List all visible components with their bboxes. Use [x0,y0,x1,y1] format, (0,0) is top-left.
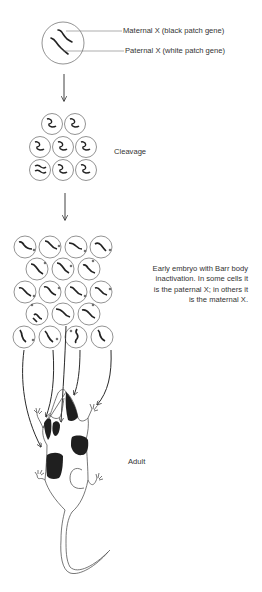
cleavage-label: Cleavage [114,147,146,157]
cleavage-cell [30,160,51,181]
embryo-cell [14,281,36,303]
zygote-cell [42,22,124,64]
embryo-cell [39,326,61,348]
patch-right-flank [71,436,88,456]
mouse-hindleft-toes [35,470,44,475]
embryo-cell [78,303,100,325]
patch-head [66,392,78,421]
mouse-foreleft-toes [34,408,42,414]
embryo-cell [39,281,61,303]
embryo-cell [90,236,112,258]
patch-left-shoulder-2 [52,421,60,436]
embryo-caption-line: is the paternal X; in others it [124,285,248,295]
maternal-x-label: Maternal X (black patch gene) [123,26,224,36]
embryo-cell [91,326,113,348]
embryo-cell [26,303,48,325]
embryo-caption-line: Early embryo with Barr body [124,264,248,274]
patch-left-shoulder-1 [44,419,51,440]
embryo-cell [52,303,74,325]
embryo-caption-line: inactivation. In some cells it [124,274,248,284]
adult-label: Adult [128,457,145,467]
cell-fate-arrows [23,326,112,447]
embryo-caption-line: is the maternal X. [124,295,248,305]
embryo-cell [65,236,87,258]
embryo-caption: Early embryo with Barr body inactivation… [124,264,248,305]
embryo-cell [90,281,112,303]
cleavage-cell [53,160,74,181]
cleavage-cluster [30,114,97,181]
paternal-x-chromosome [51,38,68,54]
paternal-x-label: Paternal X (white patch gene) [125,46,225,56]
embryo-cell [26,258,48,280]
embryo-cell [13,326,35,348]
cleavage-cell [42,114,63,135]
cleavage-cell [65,114,86,135]
embryo-cell [65,326,87,348]
embryo-cell [52,258,74,280]
cleavage-cell [30,137,51,158]
patch-left-hip [46,453,63,479]
embryo-cell [65,281,87,303]
embryo-cell [14,236,36,258]
cleavage-cell [53,137,74,158]
cleavage-cell [76,137,97,158]
maternal-x-chromosome [58,30,72,42]
cleavage-cell [76,160,97,181]
black-fur-patches [44,392,88,479]
embryo-cell [39,236,61,258]
embryo-cell [78,258,100,280]
early-embryo-cluster [13,236,113,348]
